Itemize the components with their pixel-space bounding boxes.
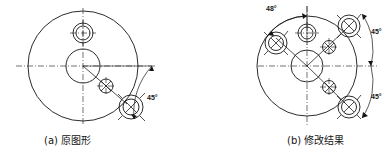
caption-original: (a) 原图形 [44,135,91,146]
inner-small-hole-upper-right [320,38,338,56]
boss-bolt-upper-right [337,14,361,38]
panel-original: 45° (a) 原图形 [16,8,158,146]
angle-arc-45-lower [362,66,373,118]
angle-arc-45 [134,66,152,119]
boss-bolt [118,93,145,121]
arrow-head-48-right [302,13,307,19]
technical-drawing-figure: 45° (a) 原图形 [0,0,390,151]
drawing-canvas: 45° (a) 原图形 [0,0,390,151]
arrow-head-45u-bottom [368,61,373,66]
angle-48-top-label: 48° [266,5,277,12]
top-hole [70,20,96,46]
angle-45-upper-right-label: 45° [371,28,382,35]
arrow-head-45u-top [362,14,367,20]
panel-modified: 48° 45° 45° (b) 修改结果 [257,5,382,146]
angle-arc-45-upper [362,14,373,66]
inner-small-hole [97,77,115,95]
caption-modified: (b) 修改结果 [287,134,344,146]
angle-45-right-label: 45° [147,94,158,101]
angle-45-lower-right-label: 45° [371,93,382,100]
